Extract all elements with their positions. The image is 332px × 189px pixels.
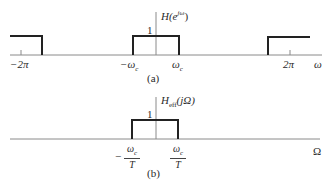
panel-a-tick-label-neg2pi: −2π <box>10 59 28 70</box>
panel-b-tick-label-wc-over-T: ωc T <box>170 144 186 170</box>
panel-a-height-label: 1 <box>147 25 153 36</box>
panel-a-tick-label-neg-wc: −ωc <box>120 59 138 73</box>
panel-a-passband-right <box>268 37 310 55</box>
panel-a-function-label: H(ejω) <box>161 10 188 22</box>
panel-b-tick-sign-neg: − <box>115 151 121 162</box>
panel-a-tick-label-wc: ωc <box>172 59 183 73</box>
panel-b-caption: (b) <box>147 168 160 179</box>
panel-b-height-label: 1 <box>147 109 153 120</box>
panel-b-function-label: Heff(jΩ) <box>161 95 195 109</box>
panel-a-passband-left <box>10 36 42 55</box>
panel-b-tick-label-neg-wc-over-T: ωc T <box>124 144 140 170</box>
panel-b-passband <box>132 120 178 139</box>
panel-a-caption: (a) <box>147 73 159 84</box>
panel-a-axis-label: ω <box>314 59 322 70</box>
panel-a-tick-label-2pi: 2π <box>283 59 294 70</box>
panel-b-axis-label: Ω <box>313 146 321 157</box>
